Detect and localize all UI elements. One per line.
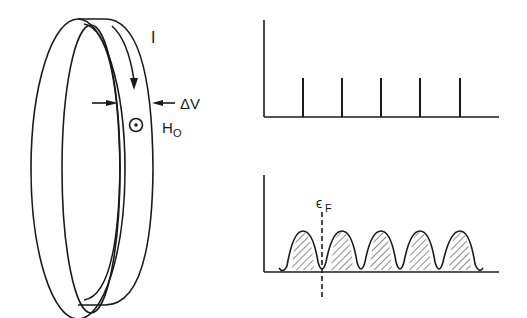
discrete-levels-chart [264,20,499,117]
ring-diagram [31,19,175,318]
field-label-sub: O [173,127,182,139]
voltage-label: ΔV [180,95,200,112]
fermi-label-sub: F [325,202,332,214]
broadened-levels-chart [264,175,499,300]
ring-band-inner [84,24,120,300]
field-dot [135,124,137,126]
current-label: I [151,29,155,46]
figure-canvas: I ΔV H O ϵ F [0,0,527,318]
current-arrowhead [130,78,138,90]
fermi-label: ϵ [316,195,322,211]
voltage-arrowhead-right [152,100,163,106]
field-label: H [162,119,173,136]
